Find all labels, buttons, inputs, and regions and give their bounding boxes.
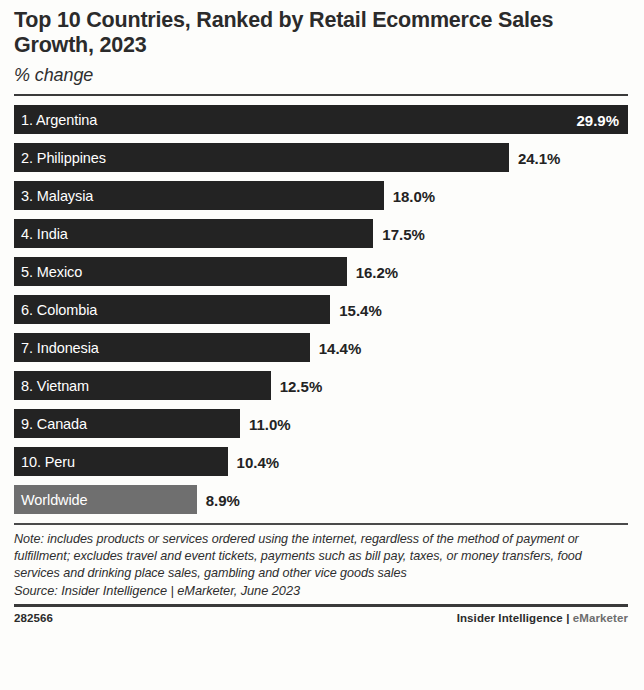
brand-logo: Insider Intelligence | eMarketer [457,612,628,624]
chart-source: Source: Insider Intelligence | eMarketer… [14,583,630,598]
bar-category-label: 9. Canada [21,416,87,432]
chart-bar-row: 3. Malaysia18.0% [14,181,644,210]
chart-bar-row: 9. Canada11.0% [14,409,644,438]
bar-chart: 1. Argentina29.9%2. Philippines24.1%3. M… [0,105,644,514]
header-divider [14,94,628,96]
chart-subtitle: % change [14,65,628,86]
chart-bar-row: 2. Philippines24.1% [14,143,644,172]
chart-id: 282566 [14,612,53,624]
footer-divider [14,604,628,606]
chart-footer: 282566 Insider Intelligence | eMarketer [14,612,628,624]
bar: 4. India [14,219,373,248]
bar-category-label: 5. Mexico [21,264,82,280]
bar-value-label: 8.9% [206,491,240,508]
bar-value-label: 29.9% [576,111,619,128]
brand-secondary-text: eMarketer [573,612,628,624]
bar: 3. Malaysia [14,181,384,210]
bar-category-label: 3. Malaysia [21,188,93,204]
bar: 8. Vietnam [14,371,271,400]
bar-value-label: 24.1% [518,149,561,166]
bar-value-label: 12.5% [280,377,323,394]
bar: 2. Philippines [14,143,509,172]
chart-bar-row: 7. Indonesia14.4% [14,333,644,362]
bar-category-label: 8. Vietnam [21,378,89,394]
bar: 5. Mexico [14,257,347,286]
bar-value-label: 17.5% [382,225,425,242]
bar: 1. Argentina29.9% [14,105,628,134]
bar-value-label: 10.4% [237,453,280,470]
bar-category-label: Worldwide [21,492,88,508]
bar-category-label: 4. India [21,226,68,242]
page-title: Top 10 Countries, Ranked by Retail Ecomm… [14,8,604,58]
note-divider [14,523,628,525]
bar-value-label: 11.0% [249,415,291,432]
bar: 7. Indonesia [14,333,310,362]
bar-category-label: 1. Argentina [21,112,97,128]
chart-page: Top 10 Countries, Ranked by Retail Ecomm… [0,0,644,690]
chart-bar-row: 8. Vietnam12.5% [14,371,644,400]
bar: Worldwide [14,485,197,514]
chart-bar-row: 5. Mexico16.2% [14,257,644,286]
bar-category-label: 10. Peru [21,454,75,470]
chart-bar-row: 10. Peru10.4% [14,447,644,476]
bar-category-label: 7. Indonesia [21,340,99,356]
chart-bar-row: 1. Argentina29.9% [14,105,644,134]
bar-value-label: 16.2% [356,263,399,280]
bar: 10. Peru [14,447,228,476]
bar: 6. Colombia [14,295,330,324]
bar-value-label: 15.4% [339,301,382,318]
bar-value-label: 14.4% [319,339,362,356]
bar: 9. Canada [14,409,240,438]
bar-category-label: 2. Philippines [21,150,106,166]
chart-bar-row: 4. India17.5% [14,219,644,248]
chart-bar-row: 6. Colombia15.4% [14,295,644,324]
bar-category-label: 6. Colombia [21,302,97,318]
chart-note: Note: includes products or services orde… [14,531,630,581]
brand-primary-text: Insider Intelligence | [457,612,573,624]
bar-value-label: 18.0% [393,187,436,204]
chart-bar-row: Worldwide8.9% [14,485,644,514]
chart-header: Top 10 Countries, Ranked by Retail Ecomm… [0,0,644,86]
